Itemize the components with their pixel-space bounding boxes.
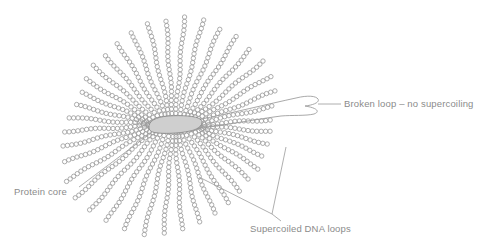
dna-bead <box>106 126 110 130</box>
dna-bead <box>174 152 178 156</box>
dna-bead <box>179 147 183 151</box>
dna-bead <box>177 174 181 178</box>
dna-bead <box>168 76 172 80</box>
dna-bead <box>91 137 95 141</box>
dna-bead <box>177 178 181 182</box>
dna-bead <box>152 43 156 47</box>
dna-bead <box>182 15 186 19</box>
dna-bead <box>166 50 170 54</box>
dna-bead <box>240 135 244 139</box>
dna-bead <box>207 51 211 55</box>
dna-bead <box>246 128 250 132</box>
dna-bead <box>153 51 157 55</box>
dna-bead <box>244 111 248 115</box>
dna-bead <box>184 164 188 168</box>
dna-bead <box>89 117 93 121</box>
dna-bead <box>185 82 189 86</box>
dna-bead <box>87 139 91 143</box>
dna-bead <box>222 131 226 135</box>
dna-bead <box>182 90 186 94</box>
dna-bead <box>241 128 245 132</box>
dna-bead <box>129 31 133 35</box>
dna-bead <box>169 98 173 102</box>
dna-bead <box>248 138 252 142</box>
dna-bead <box>63 130 67 134</box>
dna-bead <box>228 125 232 129</box>
dna-bead <box>145 22 149 26</box>
dna-bead <box>175 165 179 169</box>
dna-bead <box>240 111 244 115</box>
supercoiled-loops-leader-line-upper <box>272 147 286 214</box>
dna-bead <box>166 169 170 173</box>
dna-bead <box>152 47 156 51</box>
dna-bead <box>104 218 108 222</box>
dna-bead <box>185 104 189 108</box>
dna-bead <box>83 152 87 156</box>
dna-bead <box>166 191 170 195</box>
dna-bead <box>76 129 80 133</box>
dna-bead <box>231 132 235 136</box>
dna-bead <box>178 59 182 63</box>
dna-bead <box>106 119 110 123</box>
dna-bead <box>226 200 230 204</box>
dna-bead <box>256 167 260 171</box>
dna-bead <box>161 155 165 159</box>
dna-bead <box>182 19 186 23</box>
dna-loop-chain <box>67 116 150 127</box>
dna-bead <box>227 113 231 117</box>
dna-bead <box>177 183 181 187</box>
dna-bead <box>79 154 83 158</box>
dna-bead <box>124 125 128 129</box>
dna-bead <box>143 228 147 232</box>
dna-bead <box>98 118 102 122</box>
dna-bead <box>169 80 173 84</box>
dna-bead <box>256 140 260 144</box>
supercoiled-loops-leader-line-stem <box>272 214 281 221</box>
dna-bead <box>228 107 232 111</box>
dna-bead <box>180 222 184 226</box>
dna-bead <box>71 129 75 133</box>
label-protein-core: Protein core <box>14 186 67 197</box>
dna-bead <box>83 104 87 108</box>
dna-loop-chain <box>186 129 242 194</box>
dna-bead <box>168 72 172 76</box>
dna-bead <box>196 170 200 174</box>
dna-bead <box>164 19 168 23</box>
dna-bead <box>194 43 198 47</box>
dna-bead <box>91 63 95 67</box>
dna-bead <box>160 137 164 141</box>
dna-bead <box>250 129 254 133</box>
dna-bead <box>128 134 132 138</box>
dna-bead <box>175 89 179 93</box>
dna-bead <box>178 63 182 67</box>
dna-bead <box>108 103 112 107</box>
dna-bead <box>199 26 203 30</box>
dna-bead <box>157 73 161 77</box>
dna-bead <box>103 54 107 58</box>
dna-bead <box>242 119 246 123</box>
dna-bead <box>148 30 152 34</box>
dna-bead <box>96 109 100 113</box>
dna-bead <box>151 38 155 42</box>
dna-bead <box>177 187 181 191</box>
dna-bead <box>117 132 121 136</box>
dna-bead <box>178 209 182 213</box>
dna-bead <box>206 56 210 60</box>
dna-bead <box>145 215 149 219</box>
dna-bead <box>273 89 277 93</box>
dna-bead <box>264 91 268 95</box>
dna-bead <box>233 126 237 130</box>
dna-bead <box>218 27 222 31</box>
dna-bead <box>80 116 84 120</box>
dna-bead <box>163 94 167 98</box>
dna-bead <box>192 52 196 56</box>
dna-bead <box>195 211 199 215</box>
dna-bead <box>84 77 88 81</box>
dna-bead <box>115 42 119 46</box>
dna-bead <box>201 18 205 22</box>
dna-bead <box>73 196 77 200</box>
dna-bead <box>169 89 173 93</box>
dna-bead <box>121 114 125 118</box>
dna-bead <box>98 126 102 130</box>
dna-bead <box>120 126 124 130</box>
